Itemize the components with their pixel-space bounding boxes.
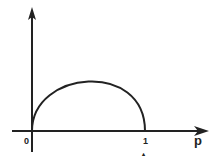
tick-label-one: 1 bbox=[143, 136, 148, 146]
chart: 0 1 p ▴ bbox=[0, 0, 215, 167]
origin-label: 0 bbox=[24, 136, 29, 146]
small-mark: ▴ bbox=[141, 151, 146, 157]
x-axis-label: p bbox=[194, 133, 202, 148]
semicircle-curve bbox=[32, 81, 145, 131]
